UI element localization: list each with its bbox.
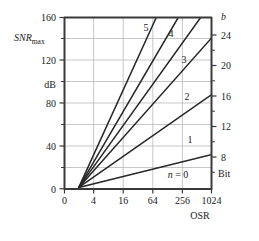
- y-axis-ticks: [60, 18, 65, 189]
- y-axis-unit-label: dB: [44, 79, 56, 90]
- xtick-label-4: 4: [91, 195, 96, 206]
- y2tick-label-24: 24: [221, 30, 231, 41]
- ytick-label-120: 120: [41, 55, 56, 66]
- ytick-label-80: 80: [46, 98, 56, 109]
- y2-axis-ticks: [212, 35, 217, 157]
- curve-label-5: 5: [144, 22, 149, 33]
- curve-label-n-0: n = 0: [168, 169, 189, 180]
- y2tick-label-8: 8: [221, 152, 226, 163]
- curve-label-2: 2: [185, 91, 190, 102]
- xtick-label-0: 0: [62, 195, 67, 206]
- xtick-label-1024: 1024: [202, 195, 222, 206]
- ytick-label-160: 160: [41, 12, 56, 23]
- y-axis-label-name: SNR: [14, 32, 32, 43]
- y2-axis-label: b: [221, 11, 226, 22]
- y2-axis-unit-label: Bit: [218, 168, 230, 179]
- curve-label-4: 4: [169, 28, 174, 39]
- curve-label-3: 3: [182, 54, 187, 65]
- y2tick-label-16: 16: [221, 91, 231, 102]
- curve-label-1: 1: [188, 134, 193, 145]
- xtick-label-256: 256: [175, 195, 190, 206]
- snr-vs-osr-chart: 160 120 80 40 0 SNRmax dB b 24 20 16 12 …: [0, 0, 259, 241]
- x-axis-label: OSR: [190, 210, 210, 221]
- xtick-label-16: 16: [118, 195, 128, 206]
- xtick-label-64: 64: [148, 195, 158, 206]
- ytick-label-40: 40: [46, 141, 56, 152]
- ytick-label-0: 0: [51, 184, 56, 195]
- y2tick-label-12: 12: [221, 121, 231, 132]
- y2tick-label-20: 20: [221, 60, 231, 71]
- y-axis-label-subscript: max: [32, 37, 45, 46]
- y-axis-label: SNRmax: [14, 32, 45, 46]
